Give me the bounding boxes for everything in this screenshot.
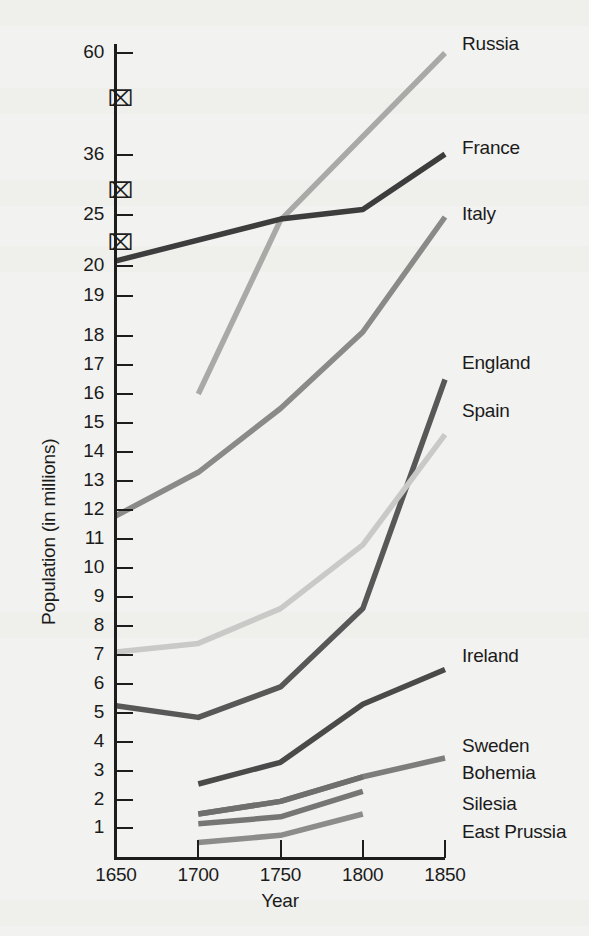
y-tick [117,799,133,801]
y-tick-label: 36 [52,143,104,165]
series-line-bohemia [198,777,362,814]
x-tick [280,840,282,858]
y-tick [117,654,133,656]
y-tick [117,480,133,482]
series-line-italy [116,217,445,516]
x-tick-label: 1750 [246,864,316,886]
y-tick [117,265,133,267]
y-tick-label: 1 [52,816,104,838]
y-tick-label: 3 [52,759,104,781]
y-tick [117,712,133,714]
y-tick-label: 5 [52,701,104,723]
y-tick-label: 60 [52,41,104,63]
y-tick-label: 19 [52,284,104,306]
y-tick [117,364,133,366]
x-tick [115,840,117,858]
y-tick-label: 18 [52,324,104,346]
x-tick-label: 1800 [328,864,398,886]
series-label-england: England [462,352,530,374]
y-tick-label: 20 [52,254,104,276]
y-tick [117,538,133,540]
x-axis-title: Year [180,890,380,912]
x-tick-label: 1850 [410,864,480,886]
y-tick [117,827,133,829]
series-label-russia: Russia [462,33,519,55]
y-tick [117,52,133,54]
y-tick [117,393,133,395]
population-line-chart: ⌧ ⌧ ⌧ 6036252019181716151413121110987654… [0,0,589,936]
axis-break-mark: ⌧ [108,232,133,254]
x-tick-label: 1650 [81,864,151,886]
y-tick [117,295,133,297]
y-tick [117,567,133,569]
series-label-spain: Spain [462,400,510,422]
y-tick-label: 15 [52,411,104,433]
series-label-bohemia: Bohemia [462,762,536,784]
series-line-spain [116,435,445,652]
y-tick-label: 25 [52,203,104,225]
series-label-east-prussia: East Prussia [462,821,566,843]
series-label-italy: Italy [462,203,496,225]
x-tick [444,840,446,858]
y-tick [117,596,133,598]
y-tick [117,422,133,424]
series-line-france [116,154,445,261]
series-label-silesia: Silesia [462,793,517,815]
y-tick [117,451,133,453]
y-tick [117,509,133,511]
y-tick-label: 7 [52,643,104,665]
y-tick [117,154,133,156]
x-tick-label: 1700 [163,864,233,886]
series-label-sweden: Sweden [462,735,529,757]
x-tick [197,840,199,858]
y-tick-label: 17 [52,353,104,375]
y-tick [117,335,133,337]
y-tick-label: 6 [52,672,104,694]
axis-break-mark: ⌧ [108,180,133,202]
series-label-france: France [462,137,520,159]
series-line-england [116,380,445,718]
y-tick [117,214,133,216]
series-line-russia [198,53,445,394]
y-tick-label: 2 [52,788,104,810]
axis-break-mark: ⌧ [108,88,133,110]
y-tick [117,625,133,627]
y-tick [117,683,133,685]
y-tick [117,770,133,772]
y-tick-label: 4 [52,730,104,752]
y-tick-label: 16 [52,382,104,404]
x-tick [362,840,364,858]
y-axis-title: Population (in millions) [38,439,60,625]
series-label-ireland: Ireland [462,645,519,667]
y-tick [117,741,133,743]
